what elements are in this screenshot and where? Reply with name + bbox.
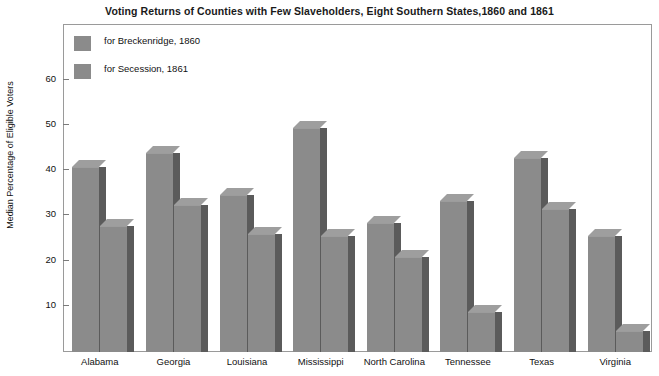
bar-face <box>293 128 320 352</box>
bar-face <box>616 331 643 352</box>
bar-mississippi-series2 <box>321 236 348 352</box>
bar-top-face <box>367 216 401 223</box>
bar-top-face <box>248 227 282 234</box>
y-tick-label: 40 <box>30 163 56 174</box>
bar-face <box>220 195 247 352</box>
bar-georgia-series1 <box>146 153 173 352</box>
legend-swatch <box>74 36 91 51</box>
bar-top-face <box>616 324 650 331</box>
bar-top-face <box>146 146 180 153</box>
bar-mississippi-series1 <box>293 128 320 352</box>
bar-face <box>440 201 467 352</box>
bar-top-face <box>72 160 106 167</box>
y-tick-label: 60 <box>30 73 56 84</box>
bar-side-shadow <box>643 331 650 352</box>
bar-louisiana-series2 <box>248 234 275 352</box>
bar-top-face <box>440 194 474 201</box>
chart-title: Voting Returns of Counties with Few Slav… <box>0 5 659 17</box>
bar-top-face <box>542 202 576 209</box>
bar-north-carolina-series1 <box>367 223 394 352</box>
bar-face <box>146 153 173 352</box>
bar-face <box>174 205 201 352</box>
x-axis-label-alabama: Alabama <box>63 356 137 367</box>
bar-top-face <box>514 151 548 158</box>
bar-side-shadow <box>201 205 208 352</box>
bar-tennessee-series1 <box>440 201 467 352</box>
legend-swatch <box>74 64 91 79</box>
bar-top-face <box>100 219 134 226</box>
x-axis-label-tennessee: Tennessee <box>431 356 505 367</box>
x-axis-label-louisiana: Louisiana <box>210 356 284 367</box>
y-axis-label: Median Percentage of Eligible Voters <box>5 0 15 335</box>
y-tick-label: 30 <box>30 208 56 219</box>
bar-top-face <box>321 229 355 236</box>
x-axis-label-north-carolina: North Carolina <box>358 356 432 367</box>
bar-face <box>395 257 422 352</box>
bar-face <box>542 209 569 352</box>
bar-face <box>367 223 394 352</box>
bar-face <box>321 236 348 352</box>
bar-face <box>248 234 275 352</box>
x-axis-label-georgia: Georgia <box>137 356 211 367</box>
bar-texas-series1 <box>514 158 541 352</box>
bar-side-shadow <box>275 234 282 352</box>
bar-alabama-series1 <box>72 167 99 352</box>
x-axis-label-virginia: Virginia <box>578 356 652 367</box>
bar-georgia-series2 <box>174 205 201 352</box>
legend-label: for Breckenridge, 1860 <box>104 35 200 46</box>
bar-face <box>100 226 127 352</box>
bar-face <box>514 158 541 352</box>
bar-face <box>72 167 99 352</box>
bar-texas-series2 <box>542 209 569 352</box>
bar-north-carolina-series2 <box>395 257 422 352</box>
bar-side-shadow <box>348 236 355 352</box>
legend-label: for Secession, 1861 <box>104 63 188 74</box>
bar-side-shadow <box>127 226 134 352</box>
y-tick-label: 20 <box>30 254 56 265</box>
bar-virginia-series2 <box>616 331 643 352</box>
bar-side-shadow <box>422 257 429 352</box>
bar-face <box>588 236 615 352</box>
bar-top-face <box>468 305 502 312</box>
bar-top-face <box>174 198 208 205</box>
bar-top-face <box>220 188 254 195</box>
y-tick-label: 50 <box>30 118 56 129</box>
bar-top-face <box>293 121 327 128</box>
bar-side-shadow <box>569 209 576 352</box>
bar-top-face <box>395 250 429 257</box>
bar-louisiana-series1 <box>220 195 247 352</box>
y-tick-label: 10 <box>30 299 56 310</box>
bar-side-shadow <box>495 312 502 352</box>
bar-alabama-series2 <box>100 226 127 352</box>
x-axis-label-mississippi: Mississippi <box>284 356 358 367</box>
bar-virginia-series1 <box>588 236 615 352</box>
bar-face <box>468 312 495 352</box>
chart-container: Voting Returns of Counties with Few Slav… <box>0 0 659 376</box>
bar-tennessee-series2 <box>468 312 495 352</box>
bar-top-face <box>588 229 622 236</box>
x-axis-label-texas: Texas <box>505 356 579 367</box>
